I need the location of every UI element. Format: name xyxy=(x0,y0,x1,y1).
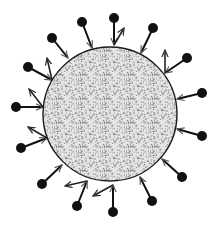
lollipop-head-dot xyxy=(11,102,21,112)
lollipop-head-dot xyxy=(72,201,82,211)
figure xyxy=(0,0,218,226)
lollipop-head-dot xyxy=(16,143,26,153)
lollipop-head-dot xyxy=(37,179,47,189)
outward-arrow-icon xyxy=(29,89,43,107)
lollipop-head-dot xyxy=(182,53,192,63)
lollipop-head-dot xyxy=(108,207,118,217)
lollipop-head-dot xyxy=(77,17,87,27)
lollipop-head-dot xyxy=(197,131,207,141)
outward-arrow-icon xyxy=(114,28,124,45)
outward-arrow-icon xyxy=(65,181,87,186)
lollipop-head-dot xyxy=(47,33,57,43)
stippled-sphere xyxy=(43,47,177,181)
outward-arrow-icon xyxy=(93,185,113,196)
lollipop-head-dot xyxy=(109,13,119,23)
particle-diagram xyxy=(0,0,218,226)
lollipop-head-dot xyxy=(23,62,33,72)
lollipop-head-dot xyxy=(197,88,207,98)
lollipop-head-dot xyxy=(177,172,187,182)
sphere-body xyxy=(43,47,177,181)
lollipop-head-dot xyxy=(148,23,158,33)
lollipop-head-dot xyxy=(147,196,157,206)
